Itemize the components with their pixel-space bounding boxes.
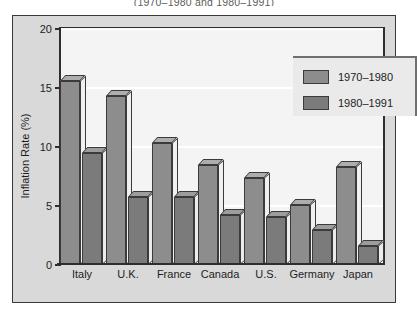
x-tick-label: U.K. [117,268,138,280]
legend-label: 1980–1991 [338,97,393,109]
y-tick-label: 15 [40,82,52,94]
x-tick-label: Japan [343,268,373,280]
legend-swatch [303,70,329,84]
bar-face [220,215,240,265]
bar-group [152,29,200,265]
y-tick-label: 20 [40,23,52,35]
bar-face [152,143,172,265]
chart-title: (1970–1980 and 1980–1991) [0,0,408,6]
x-tick-label: Italy [72,268,92,280]
chart-panel: Inflation Rate (%) 05101520 1970–1980198… [12,15,396,303]
bar[interactable] [290,205,310,265]
bar[interactable] [82,153,102,265]
legend-item[interactable]: 1970–1980 [303,68,393,86]
bar[interactable] [174,197,194,265]
bar-face [312,230,332,265]
x-tick-label: U.S. [255,268,276,280]
bar-group [244,29,292,265]
bar-face [336,167,356,265]
bar[interactable] [106,96,126,265]
bar-face [266,217,286,265]
bar[interactable] [244,178,264,265]
bar-face [106,96,126,265]
y-tick-label: 10 [40,141,52,153]
legend-swatch [303,96,329,110]
legend-label: 1970–1980 [338,71,393,83]
bar-face [60,81,80,265]
bar[interactable] [198,165,218,265]
y-axis-title: Inflation Rate (%) [19,114,31,199]
bar-group [198,29,246,265]
bar[interactable] [312,230,332,265]
bar[interactable] [152,143,172,265]
bar[interactable] [336,167,356,265]
legend-item[interactable]: 1980–1991 [303,94,393,112]
x-tick-label: France [157,268,191,280]
bar-face [82,153,102,265]
bar[interactable] [266,217,286,265]
bar[interactable] [220,215,240,265]
bar-face [290,205,310,265]
bar-face [198,165,218,265]
x-axis-line [57,263,385,265]
x-tick-label: Canada [201,268,240,280]
x-tick-label: Germany [289,268,334,280]
bar[interactable] [60,81,80,265]
y-tick-label: 5 [46,200,52,212]
bar-face [128,197,148,265]
bar-face [244,178,264,265]
bar[interactable] [128,197,148,265]
bar-group [60,29,108,265]
y-tick-label: 0 [46,259,52,271]
plot-area: 05101520 1970–19801980–1991 [59,27,385,265]
chart-legend: 1970–19801980–1991 [293,56,417,116]
bar-group [106,29,154,265]
bar-face [174,197,194,265]
